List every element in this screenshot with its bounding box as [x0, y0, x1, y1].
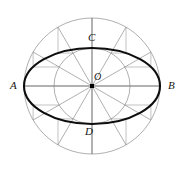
- ellipse-construction-figure: A B C D O: [0, 0, 183, 173]
- radial-line-210deg: [33, 86, 92, 120]
- center-point-marker: [90, 84, 94, 88]
- radial-line-300deg: [92, 86, 126, 145]
- label-point-o: O: [94, 72, 101, 82]
- label-point-b: B: [168, 80, 175, 91]
- label-point-c: C: [88, 32, 95, 43]
- radial-line-120deg: [58, 27, 92, 86]
- label-point-a: A: [10, 80, 17, 91]
- label-point-d: D: [85, 126, 93, 137]
- radial-line-330deg: [92, 86, 151, 120]
- figure-canvas: [0, 0, 183, 173]
- radial-line-150deg: [33, 52, 92, 86]
